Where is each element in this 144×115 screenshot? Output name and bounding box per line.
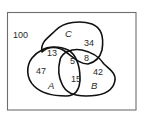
- set-b-label: B: [91, 80, 98, 91]
- region-b-and-c: 8: [84, 53, 89, 63]
- set-a-label: A: [47, 80, 54, 91]
- venn-diagram: 100 C 34 13 5 8 47 42 15 A B: [0, 0, 144, 115]
- region-a-and-b: 15: [71, 74, 81, 84]
- region-a-b-c: 5: [70, 56, 75, 66]
- region-b-only: 42: [93, 67, 103, 77]
- region-a-only: 47: [36, 66, 46, 76]
- set-c-label: C: [65, 28, 72, 39]
- region-a-and-c: 13: [47, 48, 57, 58]
- region-c-only: 34: [84, 38, 94, 48]
- universe-count: 100: [13, 30, 28, 40]
